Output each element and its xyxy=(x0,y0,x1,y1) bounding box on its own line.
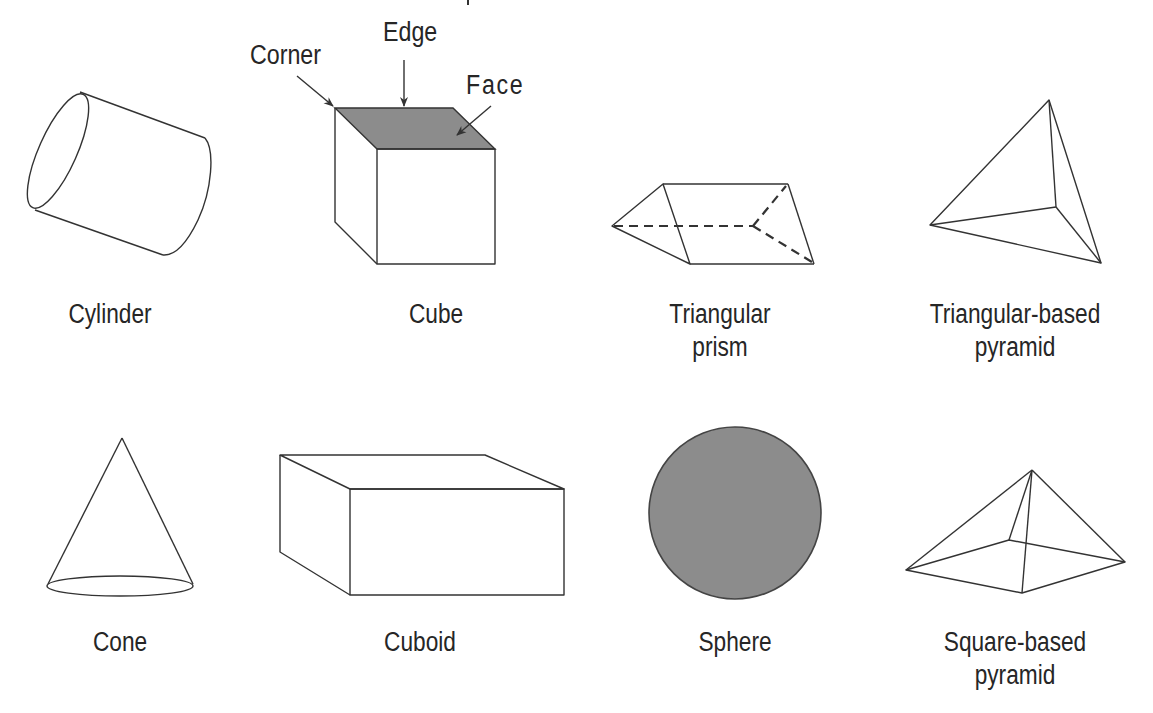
label-line: Cylinder xyxy=(68,299,151,329)
square-pyramid-shape xyxy=(906,470,1125,593)
cone-shape xyxy=(47,438,193,596)
cube-top-face xyxy=(335,108,495,149)
corner-arrow xyxy=(297,76,333,106)
cube-shape xyxy=(335,108,495,264)
label-cone: Cone xyxy=(36,626,204,659)
label-line: pyramid xyxy=(914,659,1116,692)
sphere-shape xyxy=(649,427,821,599)
label-square-pyramid: Square-based pyramid xyxy=(914,626,1116,692)
annotation-corner: Corner xyxy=(250,40,321,70)
annotation-edge: Edge xyxy=(383,17,437,47)
label-line: pyramid xyxy=(914,331,1116,364)
label-cuboid: Cuboid xyxy=(336,626,504,659)
cuboid-shape xyxy=(280,455,564,595)
annotation-face: Face xyxy=(466,70,525,100)
triangular-prism-shape xyxy=(612,184,814,264)
label-line: prism xyxy=(636,331,804,364)
label-line: Square-based xyxy=(914,626,1116,659)
label-line: Sphere xyxy=(698,627,771,657)
label-cylinder: Cylinder xyxy=(26,298,194,331)
triangular-pyramid-shape xyxy=(930,100,1101,263)
label-line: Triangular-based xyxy=(914,298,1116,331)
label-line: Cuboid xyxy=(384,627,456,657)
label-line: Cone xyxy=(93,627,147,657)
label-cube: Cube xyxy=(352,298,520,331)
label-triangular-pyramid: Triangular-based pyramid xyxy=(914,298,1116,364)
label-triangular-prism: Triangular prism xyxy=(636,298,804,364)
label-line: Triangular xyxy=(636,298,804,331)
cylinder-shape xyxy=(15,87,210,255)
label-sphere: Sphere xyxy=(651,626,819,659)
label-line: Cube xyxy=(409,299,463,329)
